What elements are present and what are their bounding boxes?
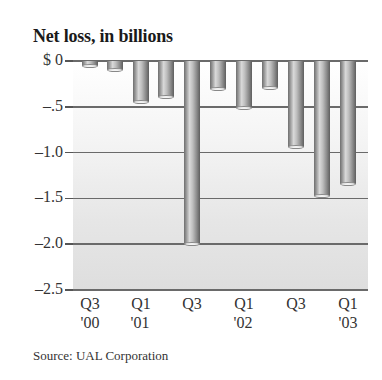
y-tick-label: –1.0 bbox=[35, 144, 63, 160]
bar bbox=[210, 61, 226, 89]
x-tick-year: '02 bbox=[223, 314, 263, 331]
y-tick-label: $ 0 bbox=[43, 52, 63, 68]
x-tick-year: '03 bbox=[328, 314, 368, 331]
bar bbox=[107, 61, 123, 70]
y-tick-mark bbox=[65, 243, 73, 245]
y-tick-label: –2.5 bbox=[35, 281, 63, 297]
bar bbox=[184, 61, 200, 244]
y-tick-mark bbox=[65, 60, 73, 62]
bar bbox=[340, 61, 356, 184]
plot-area bbox=[73, 61, 368, 290]
y-tick-mark bbox=[65, 198, 73, 200]
y-tick-label: –.5 bbox=[43, 98, 63, 114]
x-tick-year: '01 bbox=[120, 314, 160, 331]
bar bbox=[82, 61, 98, 66]
x-tick-quarter: Q1 bbox=[121, 295, 161, 312]
y-tick-mark bbox=[65, 106, 73, 108]
bar bbox=[236, 61, 252, 108]
gridline bbox=[73, 243, 368, 245]
bar bbox=[314, 61, 330, 196]
y-tick-label: –1.5 bbox=[35, 189, 63, 205]
x-tick-year: '00 bbox=[70, 314, 110, 331]
x-tick-quarter: Q1 bbox=[224, 295, 264, 312]
bar bbox=[133, 61, 149, 102]
gridline bbox=[73, 198, 368, 200]
chart-title: Net loss, in billions bbox=[33, 26, 173, 47]
x-tick-quarter: Q3 bbox=[276, 295, 316, 312]
bar bbox=[158, 61, 174, 97]
gridline bbox=[73, 289, 368, 291]
y-tick-label: –2.0 bbox=[35, 235, 63, 251]
bar bbox=[262, 61, 278, 88]
x-tick-quarter: Q3 bbox=[70, 295, 110, 312]
bar bbox=[288, 61, 304, 147]
x-tick-quarter: Q1 bbox=[328, 295, 368, 312]
y-tick-mark bbox=[65, 152, 73, 154]
source-note: Source: UAL Corporation bbox=[33, 348, 168, 364]
x-tick-quarter: Q3 bbox=[172, 295, 212, 312]
y-tick-mark bbox=[65, 289, 73, 291]
